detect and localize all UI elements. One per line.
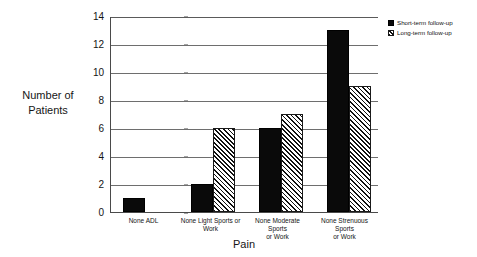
y-tick-label: 6 (78, 124, 104, 134)
y-tick-label: 14 (78, 12, 104, 22)
y-tick-label: 8 (78, 96, 104, 106)
legend-swatch-solid-icon (388, 20, 394, 26)
bar-pair (315, 17, 383, 212)
bar-short-term (259, 128, 281, 212)
bar-long-term (213, 128, 235, 212)
y-tick-label: 0 (78, 208, 104, 218)
bar-short-term (191, 184, 213, 212)
x-category-label-line2: Work (178, 225, 243, 233)
bar-group (315, 17, 383, 212)
x-category-label-line1: None Moderate Sports (245, 217, 310, 233)
y-tick-label: 10 (78, 68, 104, 78)
bar-pair (111, 17, 179, 212)
bar-short-term (123, 198, 145, 212)
y-axis-ticks: 14121086420 (78, 0, 104, 257)
plot-area (110, 17, 378, 213)
x-category-label-line1: None Light Sports or (178, 217, 243, 225)
bar-pair (247, 17, 315, 212)
y-tick-label: 12 (78, 40, 104, 50)
legend-item-short-term: Short-term follow-up (388, 19, 476, 27)
x-axis-title: Pain (110, 238, 378, 251)
bar-group (179, 17, 247, 212)
bar-long-term (349, 86, 371, 212)
legend-label-short-term: Short-term follow-up (397, 19, 453, 27)
bar-groups (111, 17, 378, 212)
y-tick-label: 2 (78, 180, 104, 190)
bar-pair (179, 17, 247, 212)
bar-short-term (327, 30, 349, 212)
x-category-label-line1: None Strenuous Sports (312, 217, 377, 233)
bar-long-term (281, 114, 303, 212)
x-category-label-line1: None ADL (111, 217, 176, 225)
legend-label-long-term: Long-term follow-up (397, 29, 452, 37)
y-tick-label: 4 (78, 152, 104, 162)
bar-group (247, 17, 315, 212)
bar-chart: Number of Patients 14121086420 None ADLN… (0, 0, 477, 257)
legend: Short-term follow-up Long-term follow-up (388, 19, 476, 39)
bar-group (111, 17, 179, 212)
legend-swatch-hatch-icon (388, 30, 394, 36)
legend-item-long-term: Long-term follow-up (388, 29, 476, 37)
